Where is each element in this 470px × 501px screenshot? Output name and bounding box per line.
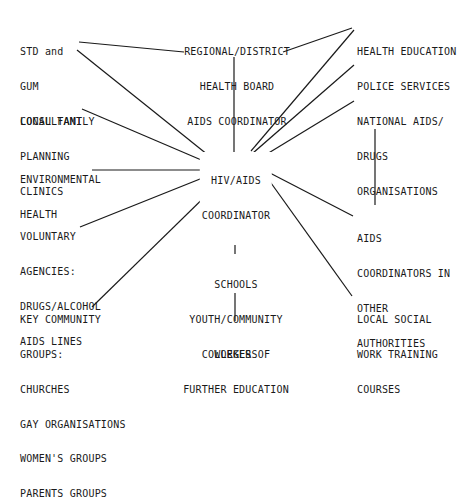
- node-label-line: LOCAL SOCIAL: [357, 314, 438, 326]
- node-label-line: KEY COMMUNITY: [20, 314, 126, 326]
- node-label-line: FURTHER EDUCATION: [183, 384, 289, 396]
- node-label-line: NATIONAL AIDS/: [357, 116, 444, 128]
- node-hiv-aids-coordinator: HIV/AIDS COORDINATOR: [200, 152, 272, 245]
- edge-regional-std: [79, 42, 184, 52]
- node-label-line: GAY ORGANISATIONS: [20, 419, 126, 431]
- node-label-line: HEALTH EDUCATION: [357, 46, 457, 58]
- node-label-line: GROUPS:: [20, 349, 126, 361]
- node-label-line: POLICE SERVICES: [357, 81, 450, 93]
- node-label-line: GUM: [20, 81, 82, 93]
- node-label-line: YOUTH/COMMUNITY: [189, 314, 282, 326]
- node-regional-health-board: REGIONAL/DISTRICT HEALTH BOARD AIDS COOR…: [184, 23, 290, 151]
- node-label-line: REGIONAL/DISTRICT: [184, 46, 290, 58]
- node-colleges-further-education: COLLEGES OF FURTHER EDUCATION: [183, 326, 289, 419]
- node-label-line: AIDS: [357, 233, 450, 245]
- node-local-social-work-training: LOCAL SOCIAL WORK TRAINING COURSES: [357, 291, 438, 419]
- node-label-line: STD and: [20, 46, 82, 58]
- node-label-line: LOCAL FAMILY: [20, 116, 95, 128]
- node-label-line: HIV/AIDS: [202, 175, 270, 187]
- node-label-line: ENVIRONMENTAL: [20, 174, 101, 186]
- node-label-line: AIDS COORDINATOR: [184, 116, 290, 128]
- node-label-line: COORDINATORS IN: [357, 268, 450, 280]
- node-label-line: DRUGS: [357, 151, 444, 163]
- node-label-line: WORK TRAINING: [357, 349, 438, 361]
- node-label-line: PARENTS GROUPS: [20, 488, 126, 500]
- node-national-aids-drugs: NATIONAL AIDS/ DRUGS ORGANISATIONS: [357, 93, 444, 221]
- node-label-line: WOMEN'S GROUPS: [20, 453, 126, 465]
- node-label-line: COURSES: [357, 384, 438, 396]
- edge-hiv-other-coordinators: [268, 172, 353, 216]
- node-label-line: SCHOOLS: [189, 279, 282, 291]
- node-label-line: ORGANISATIONS: [357, 186, 444, 198]
- edge-regional-health-education: [283, 28, 352, 52]
- node-label-line: COORDINATOR: [202, 210, 270, 222]
- node-label-line: COLLEGES OF: [183, 349, 289, 361]
- node-label-line: CHURCHES: [20, 384, 126, 396]
- node-key-community-groups: KEY COMMUNITY GROUPS: CHURCHES GAY ORGAN…: [20, 291, 126, 501]
- node-label-line: VOLUNTARY: [20, 231, 101, 243]
- node-label-line: HEALTH BOARD: [184, 81, 290, 93]
- node-label-line: AGENCIES:: [20, 266, 101, 278]
